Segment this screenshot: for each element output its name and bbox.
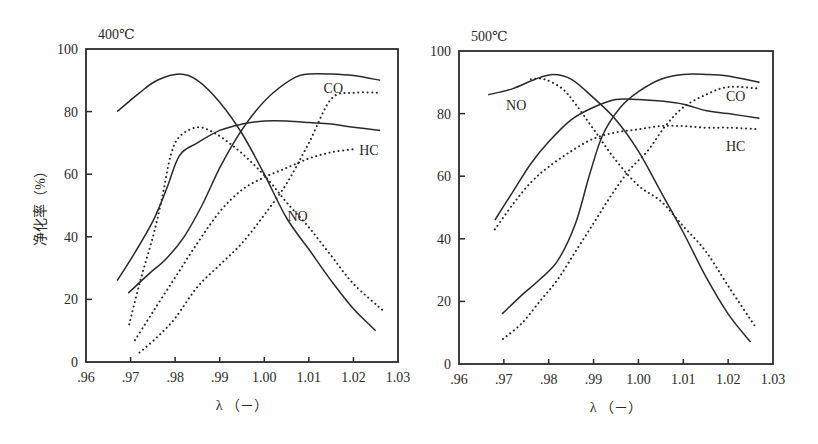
y-tick-label: 40 <box>64 230 78 245</box>
y-tick-label: 0 <box>444 357 451 372</box>
y-tick-label: 0 <box>71 355 78 370</box>
series-label-co: CO <box>726 89 745 104</box>
x-axis-label: λ （－） <box>216 398 268 413</box>
x-tick-label: 1.02 <box>716 372 741 387</box>
x-tick-label: 1.03 <box>761 372 786 387</box>
chart-500c: 500℃.96.97.98.991.001.011.021.0302040608… <box>430 29 785 415</box>
y-tick-label: 80 <box>64 105 78 120</box>
chart-canvas: 400℃.96.97.98.991.001.011.021.0302040608… <box>0 0 818 444</box>
chart-title: 500℃ <box>471 29 508 44</box>
x-tick-label: 1.01 <box>671 372 696 387</box>
x-tick-label: .98 <box>540 372 558 387</box>
x-axis-label: λ （－） <box>590 400 642 415</box>
x-tick-label: .97 <box>495 372 513 387</box>
series-label-hc: HC <box>726 139 745 154</box>
plot-frame <box>86 49 398 362</box>
y-axis-label: 净化率（%） <box>32 164 48 246</box>
x-tick-label: .96 <box>450 372 468 387</box>
x-tick-label: 1.03 <box>386 370 411 385</box>
series-no-solid <box>117 74 376 331</box>
series-hc-solid <box>495 99 760 220</box>
series-co-dotted <box>503 87 760 339</box>
series-hc-dotted <box>135 149 353 340</box>
y-tick-label: 20 <box>437 294 451 309</box>
y-tick-label: 60 <box>437 169 451 184</box>
series-label-hc: HC <box>359 143 378 158</box>
series-label-no: NO <box>506 98 526 113</box>
x-tick-label: 1.00 <box>252 370 277 385</box>
series-no-solid <box>488 75 750 343</box>
series-hc-dotted <box>495 126 760 230</box>
y-tick-label: 60 <box>64 167 78 182</box>
x-tick-label: 1.00 <box>626 372 651 387</box>
x-tick-label: 1.02 <box>341 370 366 385</box>
y-tick-label: 100 <box>57 42 78 57</box>
series-no-dotted <box>531 78 755 326</box>
x-tick-label: 1.01 <box>297 370 322 385</box>
figure: 400℃.96.97.98.991.001.011.021.0302040608… <box>0 0 818 444</box>
series-co-solid <box>502 74 759 314</box>
chart-400c: 400℃.96.97.98.991.001.011.021.0302040608… <box>57 27 410 413</box>
y-tick-label: 100 <box>430 44 451 59</box>
series-label-no: NO <box>287 209 307 224</box>
series-no-dotted <box>129 127 384 324</box>
y-tick-label: 80 <box>437 107 451 122</box>
y-tick-label: 40 <box>437 232 451 247</box>
x-tick-label: .99 <box>585 372 603 387</box>
x-tick-label: .96 <box>77 370 95 385</box>
y-tick-label: 20 <box>64 292 78 307</box>
series-co-solid <box>128 74 380 293</box>
series-label-co: CO <box>324 81 343 96</box>
chart-title: 400℃ <box>98 27 135 42</box>
x-tick-label: .98 <box>166 370 184 385</box>
x-tick-label: .97 <box>122 370 140 385</box>
x-tick-label: .99 <box>211 370 229 385</box>
series-co-dotted <box>140 92 381 352</box>
